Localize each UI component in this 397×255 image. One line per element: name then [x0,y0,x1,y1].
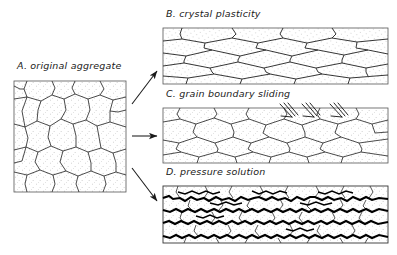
process-arrows [132,71,157,201]
arrow-a-to-b [132,71,157,104]
arrow-a-to-d [132,168,157,201]
figure-canvas [0,0,397,255]
panel-c [163,103,388,163]
panel-d [163,186,388,243]
panel-a [14,81,126,192]
panel-b [163,28,388,84]
deformation-mechanisms-figure: A. original aggregate B. crystal plastic… [0,0,397,255]
